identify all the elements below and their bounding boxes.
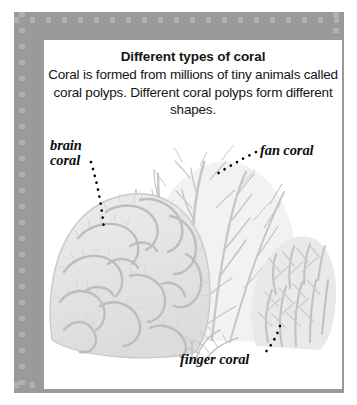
frame-dot-pattern-left [19, 12, 25, 393]
frame-dot-pattern-top [14, 17, 344, 23]
label-brain-coral: brain coral [50, 138, 82, 168]
brain-coral-shape [50, 190, 210, 358]
label-fan-coral: fan coral [260, 143, 313, 158]
coral-illustration [44, 40, 342, 389]
label-finger-coral: finger coral [180, 352, 249, 367]
decorative-frame: Different types of coral Coral is formed… [14, 12, 344, 393]
content-panel: Different types of coral Coral is formed… [44, 40, 342, 389]
figure-page: Different types of coral Coral is formed… [0, 0, 357, 405]
